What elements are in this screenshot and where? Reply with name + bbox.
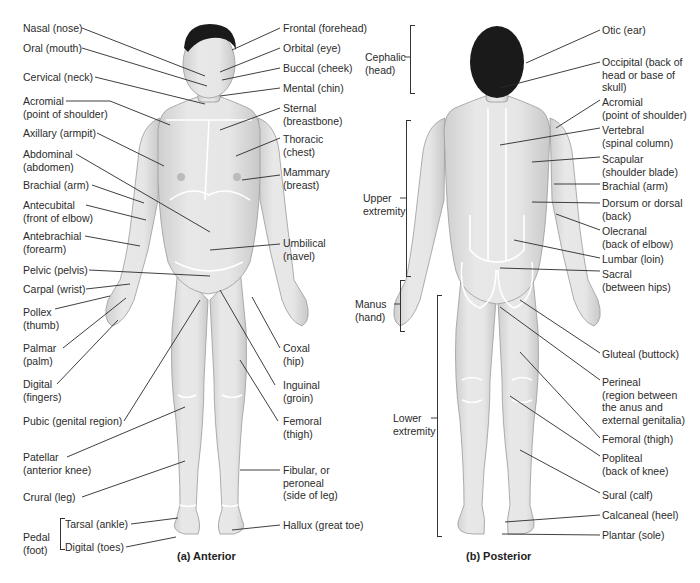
label-coxal: Coxal(hip) — [283, 342, 310, 367]
label-pubic: Pubic (genital region) — [23, 415, 122, 428]
label-antebrachial: Antebrachial(forearm) — [23, 230, 81, 255]
label-palmar: Palmar(palm) — [23, 342, 56, 367]
anterior-figure — [106, 30, 309, 534]
upper-extremity-bracket — [406, 120, 411, 277]
label-crural: Crural (leg) — [23, 491, 76, 504]
label-manus: Manus(hand) — [355, 298, 387, 323]
label-frontal: Frontal (forehead) — [283, 22, 367, 35]
label-otic: Otic (ear) — [602, 24, 646, 37]
label-inguinal: Inguinal(groin) — [283, 379, 320, 404]
label-digital-fingers: Digital(fingers) — [23, 378, 62, 403]
label-orbital: Orbital (eye) — [283, 42, 341, 55]
label-mammary: Mammary(breast) — [283, 166, 330, 191]
lower-extremity-bracket — [437, 295, 442, 537]
label-patellar: Patellar(anterior knee) — [23, 451, 91, 476]
label-cephalic: Cephalic(head) — [365, 51, 406, 76]
label-occipital: Occipital (back ofhead or base ofskull) — [602, 56, 683, 94]
posterior-figure — [394, 80, 601, 534]
label-acromial: Acromial(point of shoulder) — [23, 95, 108, 120]
label-upper-extremity: Upperextremity — [363, 192, 406, 217]
label-acromial-posterior: Acromial(point of shoulder) — [602, 96, 687, 121]
label-gluteal: Gluteal (buttock) — [602, 348, 679, 361]
label-nasal: Nasal (nose) — [23, 22, 83, 35]
label-umbilical: Umbilical(navel) — [283, 237, 326, 262]
cephalic-bracket — [410, 25, 415, 94]
label-pedal: Pedal(foot) — [23, 531, 50, 556]
label-fibular: Fibular, orperoneal(side of leg) — [283, 464, 338, 502]
label-sural: Sural (calf) — [602, 489, 653, 502]
label-femoral-posterior: Femoral (thigh) — [602, 433, 673, 446]
label-pollex: Pollex(thumb) — [23, 306, 59, 331]
label-pelvic: Pelvic (pelvis) — [23, 264, 88, 277]
label-hallux: Hallux (great toe) — [283, 519, 364, 532]
label-sternal: Sternal(breastbone) — [283, 102, 343, 127]
label-thoracic: Thoracic(chest) — [283, 133, 323, 158]
manus-bracket — [400, 280, 405, 332]
label-antecubital: Antecubital(front of elbow) — [23, 199, 93, 224]
label-tarsal: Tarsal (ankle) — [65, 518, 128, 531]
label-carpal: Carpal (wrist) — [23, 283, 85, 296]
label-dorsum: Dorsum or dorsal(back) — [602, 197, 683, 222]
label-axillary: Axillary (armpit) — [23, 127, 96, 140]
label-lumbar: Lumbar (loin) — [602, 253, 664, 266]
label-femoral: Femoral(thigh) — [283, 415, 322, 440]
label-digital-toes: Digital (toes) — [65, 541, 124, 554]
label-buccal: Buccal (cheek) — [283, 62, 352, 75]
label-sacral: Sacral(between hips) — [602, 268, 671, 293]
label-brachial-posterior: Brachial (arm) — [602, 180, 668, 193]
caption-posterior: (b) Posterior — [466, 550, 531, 562]
label-popliteal: Popliteal(back of knee) — [602, 452, 669, 477]
label-mental: Mental (chin) — [283, 82, 344, 95]
label-cervical: Cervical (neck) — [23, 71, 93, 84]
posterior-hair — [470, 26, 524, 98]
label-brachial: Brachial (arm) — [23, 179, 89, 192]
label-vertebral: Vertebral(spinal column) — [602, 124, 673, 149]
label-lower-extremity: Lowerextremity — [393, 412, 436, 437]
label-abdominal: Abdominal(abdomen) — [23, 148, 74, 173]
label-olecranal: Olecranal(back of elbow) — [602, 225, 673, 250]
label-perineal: Perineal(region betweenthe anus andexter… — [602, 376, 685, 426]
caption-anterior: (a) Anterior — [177, 550, 236, 562]
body-figures — [0, 0, 700, 583]
label-scapular: Scapular(shoulder blade) — [602, 153, 678, 178]
label-plantar: Plantar (sole) — [602, 529, 664, 542]
label-oral: Oral (mouth) — [23, 42, 82, 55]
label-calcaneal: Calcaneal (heel) — [602, 509, 678, 522]
